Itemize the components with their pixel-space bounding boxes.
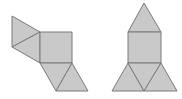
net-left-square-face-2 <box>40 32 72 63</box>
nets-diagram <box>0 0 182 99</box>
net-right-square-face-1 <box>128 32 161 63</box>
net-right-triangle-face-0 <box>128 3 161 32</box>
net-right <box>112 3 177 91</box>
net-left <box>12 16 88 91</box>
